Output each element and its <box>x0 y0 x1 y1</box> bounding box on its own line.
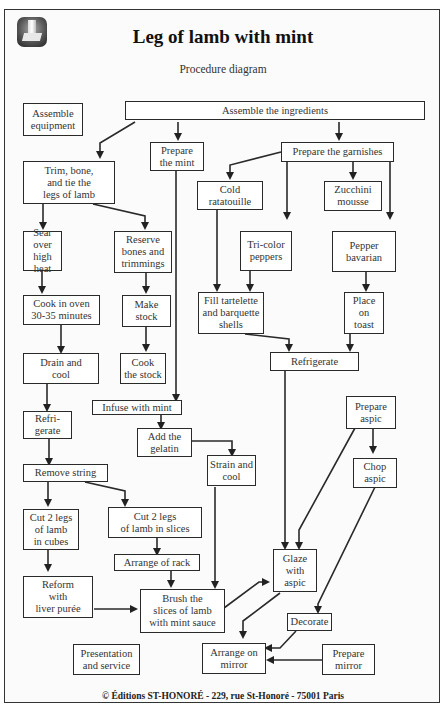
copyright-footer: © Éditions ST-HONORÉ - 229, rue St-Honor… <box>0 691 446 701</box>
node-prepare-mirror[interactable]: Prepare mirror <box>322 644 375 675</box>
node-reserve-bones[interactable]: Reserve bones and trimmings <box>114 231 172 273</box>
node-fill-shells[interactable]: Fill tartelette and barquette shells <box>198 292 264 334</box>
node-place-on-toast[interactable]: Place on toast <box>344 292 384 334</box>
node-sear[interactable]: Sear over high heat <box>23 231 62 271</box>
node-prepare-mint[interactable]: Prepare the mint <box>150 142 204 171</box>
node-arrange-rack[interactable]: Arrange of rack <box>114 554 200 571</box>
node-infuse-mint[interactable]: Infuse with mint <box>92 400 182 415</box>
node-pepper-bavarian[interactable]: Pepper bavarian <box>332 231 396 272</box>
node-chop-aspic[interactable]: Chop aspic <box>353 458 397 488</box>
node-add-gelatin[interactable]: Add the gelatin <box>137 428 192 457</box>
node-arrange-mirror[interactable]: Arrange on mirror <box>202 643 266 674</box>
node-decorate[interactable]: Decorate <box>287 613 332 631</box>
node-prepare-garnishes[interactable]: Prepare the garnishes <box>281 142 394 162</box>
node-brush-slices[interactable]: Brush the slices of lamb with mint sauce <box>140 589 225 633</box>
node-assemble-equipment[interactable]: Assemble equipment <box>23 103 83 136</box>
node-trim-bone-tie[interactable]: Trim, bone, and tie the legs of lamb <box>23 161 115 204</box>
node-presentation[interactable]: Presentation and service <box>73 644 140 675</box>
node-cut-slices[interactable]: Cut 2 legs of lamb in slices <box>108 507 202 538</box>
node-cut-cubes[interactable]: Cut 2 legs of lamb in cubes <box>23 509 79 550</box>
node-cook-stock[interactable]: Cook the stock <box>120 353 166 384</box>
node-tricolor-peppers[interactable]: Tri-color peppers <box>240 231 292 271</box>
node-assemble-ingredients[interactable]: Assemble the ingredients <box>125 101 425 120</box>
node-cold-ratatouille[interactable]: Cold ratatouille <box>197 181 263 210</box>
node-refrigerate-garnish[interactable]: Refrigerate <box>270 352 359 371</box>
diagram-subtitle: Procedure diagram <box>0 63 446 75</box>
node-prepare-aspic[interactable]: Prepare aspic <box>346 396 396 429</box>
node-drain-cool[interactable]: Drain and cool <box>23 353 99 384</box>
node-zucchini-mousse[interactable]: Zucchini mousse <box>324 181 382 211</box>
node-cook-oven[interactable]: Cook in oven 30-35 minutes <box>23 295 100 325</box>
node-remove-string[interactable]: Remove string <box>23 464 108 482</box>
node-make-stock[interactable]: Make stock <box>122 295 171 327</box>
node-reform-liver[interactable]: Reform with liver purée <box>23 576 93 618</box>
node-glaze-aspic[interactable]: Glaze with aspic <box>273 549 317 592</box>
node-strain-cool[interactable]: Strain and cool <box>207 455 256 486</box>
diagram-title: Leg of lamb with mint <box>0 26 446 48</box>
node-refrigerate-lamb[interactable]: Refri- gerate <box>23 411 72 439</box>
